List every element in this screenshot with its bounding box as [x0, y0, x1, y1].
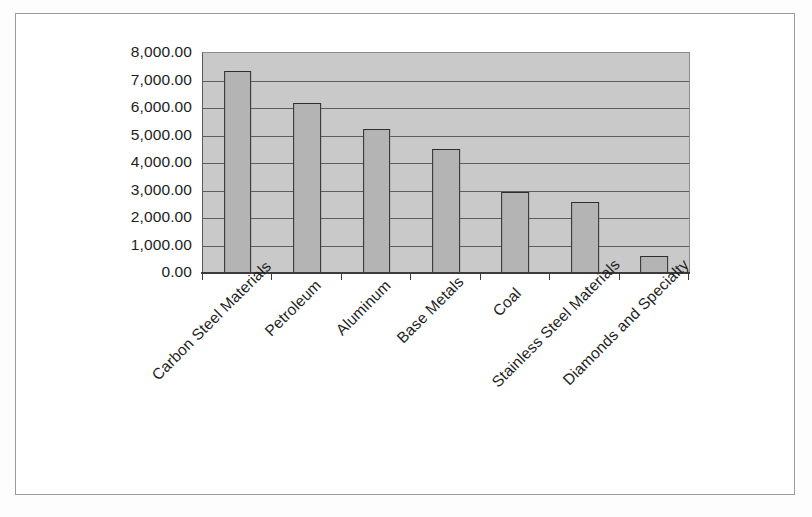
x-axis-category-labels: Carbon Steel MaterialsPetroleumAluminumB…	[0, 0, 812, 517]
bar-chart: 0.001,000.002,000.003,000.004,000.005,00…	[0, 0, 812, 517]
scanned-page: 0.001,000.002,000.003,000.004,000.005,00…	[0, 0, 812, 517]
x-axis-category-label: Base Metals	[394, 274, 466, 346]
x-axis-category-label: Coal	[490, 285, 524, 319]
x-axis-category-label: Stainless Steel Materials	[489, 256, 623, 390]
x-axis-category-label: Aluminum	[333, 277, 394, 338]
x-axis-category-label: Petroleum	[262, 277, 324, 339]
x-axis-category-label: Diamonds and Specialty	[560, 256, 691, 387]
x-axis-category-label: Carbon Steel Materials	[149, 258, 274, 383]
